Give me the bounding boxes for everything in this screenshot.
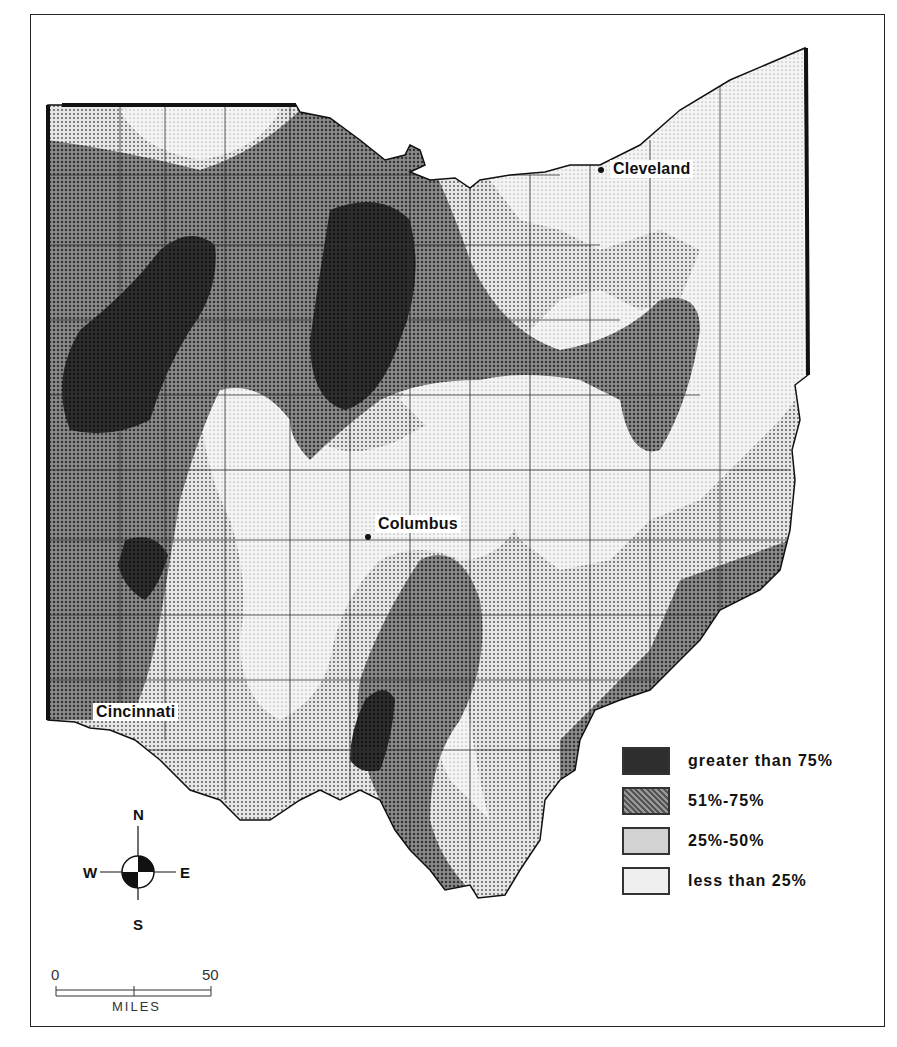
legend-label: greater than 75% (688, 752, 833, 770)
compass-north: N (133, 806, 144, 823)
scale-unit: MILES (112, 999, 161, 1014)
city-label-columbus: Columbus (375, 515, 461, 533)
legend-swatch-dark (622, 787, 670, 815)
compass-west: W (83, 864, 97, 881)
scale-start: 0 (51, 966, 59, 983)
scale-end: 50 (202, 966, 219, 983)
compass-east: E (180, 864, 190, 881)
columbus-marker-icon (365, 534, 371, 540)
legend-item-less-than-25: less than 25% (622, 868, 833, 894)
legend: greater than 75% 51%-75% 25%-50% less th… (622, 748, 833, 908)
legend-swatch-mid (622, 827, 670, 855)
compass-rose-icon (100, 826, 176, 900)
scale-bar (56, 986, 211, 996)
city-label-cleveland: Cleveland (610, 160, 693, 178)
legend-swatch-light (622, 867, 670, 895)
legend-item-25-50: 25%-50% (622, 828, 833, 854)
legend-label: 25%-50% (688, 832, 764, 850)
legend-item-greater-than-75: greater than 75% (622, 748, 833, 774)
legend-swatch-darkest (622, 747, 670, 775)
legend-label: 51%-75% (688, 792, 764, 810)
legend-label: less than 25% (688, 872, 807, 890)
compass-south: S (133, 916, 143, 933)
city-label-cincinnati: Cincinnati (93, 703, 178, 721)
legend-item-51-75: 51%-75% (622, 788, 833, 814)
cleveland-marker-icon (598, 167, 604, 173)
